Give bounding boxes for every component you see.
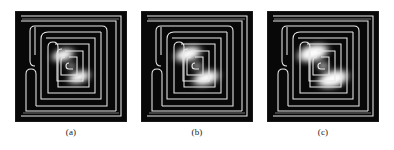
panel-a: (a) [15,11,127,137]
panel-a-caption: (a) [66,128,77,137]
spiral-pattern-a [15,11,127,122]
panel-b-image [141,11,253,122]
panel-b: (b) [141,11,253,137]
panel-a-image [15,11,127,122]
spiral-pattern-b [141,11,253,122]
figure-container: (a) [0,0,394,150]
panel-c-image [267,11,379,122]
panel-b-caption: (b) [191,128,202,137]
panel-c-caption: (c) [318,128,329,137]
panel-c: (c) [267,11,379,137]
panel-row: (a) [0,0,394,150]
spiral-pattern-c [267,11,379,122]
